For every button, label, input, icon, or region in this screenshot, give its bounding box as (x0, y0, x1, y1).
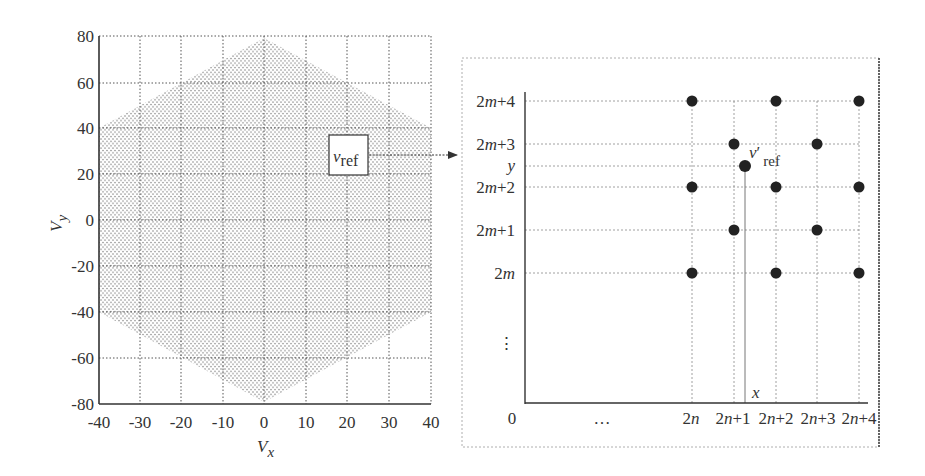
y-tick-label: 2m+4 (476, 92, 515, 111)
x-tick-label: 2n+2 (758, 409, 793, 428)
vref-prime-label: v′ref (749, 143, 780, 169)
x-tick-label: -40 (88, 413, 111, 432)
y-tick-label: -60 (71, 349, 94, 368)
lattice-point (854, 96, 865, 107)
right-x-ticks: 0 … 2n 2n+1 2n+2 2n+3 2n+4 (508, 409, 877, 428)
y-tick-label: 60 (77, 74, 94, 93)
right-y-ticks: 2m+4 2m+3 y 2m+2 2m+1 2m ⋮ (476, 92, 515, 353)
x-tick-label: 2n+1 (715, 409, 750, 428)
y-tick-label: 40 (77, 119, 94, 138)
left-x-ticks: -40 -30 -20 -10 0 10 20 30 40 (88, 413, 440, 432)
y-tick-label: 2m+2 (476, 178, 515, 197)
y-tick-label: 2m+1 (476, 221, 515, 240)
left-plot: 80 60 40 20 0 -20 -40 -60 -80 -40 -30 -2… (47, 27, 457, 460)
lattice-point (854, 268, 865, 279)
x-ellipsis: … (594, 409, 611, 428)
x-tick-label: 0 (260, 413, 269, 432)
y-axis-label: Vy (47, 215, 70, 232)
figure-canvas: 80 60 40 20 0 -20 -40 -60 -80 -40 -30 -2… (0, 0, 925, 476)
y-tick-label: -40 (71, 303, 94, 322)
lattice-point (771, 182, 782, 193)
right-panel: v′ref 2m+4 2m+3 y 2m+2 2m+1 2m ⋮ 0 … 2n … (462, 58, 879, 447)
lattice-point (687, 268, 698, 279)
lattice-point (687, 182, 698, 193)
y-tick-label: 2m+3 (476, 135, 515, 154)
x-tick-label: 20 (339, 413, 356, 432)
lattice-point (812, 139, 823, 150)
y-tick-label: -20 (71, 257, 94, 276)
y-tick-label: 0 (86, 211, 95, 230)
x-axis-label: Vx (257, 437, 274, 460)
lattice-point (729, 225, 740, 236)
lattice-point (854, 182, 865, 193)
lattice-point (812, 225, 823, 236)
x-tick-label: 30 (381, 413, 398, 432)
x-tick-label: 40 (423, 413, 440, 432)
y-tick-label: -80 (71, 395, 94, 414)
x-tick-label: 2n (683, 409, 700, 428)
x-tick-label: 2n+3 (800, 409, 835, 428)
right-grid (525, 101, 859, 403)
x-tick-label: 2n+4 (841, 409, 877, 428)
y-ellipsis: ⋮ (498, 334, 515, 353)
y-tick-label: 20 (77, 165, 94, 184)
x-tick-label: -10 (212, 413, 235, 432)
x-tick-label: -20 (170, 413, 193, 432)
lattice-point (771, 96, 782, 107)
x-marker-label: x (751, 383, 760, 402)
origin-label: 0 (508, 409, 517, 428)
lattice-point (687, 96, 698, 107)
left-y-ticks: 80 60 40 20 0 -20 -40 -60 -80 (71, 27, 94, 414)
y-tick-label: y (505, 156, 515, 175)
y-tick-label: 2m (494, 264, 515, 283)
lattice-point (771, 268, 782, 279)
x-tick-label: -30 (129, 413, 152, 432)
lattice-point (729, 139, 740, 150)
y-tick-label: 80 (77, 27, 94, 46)
x-tick-label: 10 (298, 413, 315, 432)
